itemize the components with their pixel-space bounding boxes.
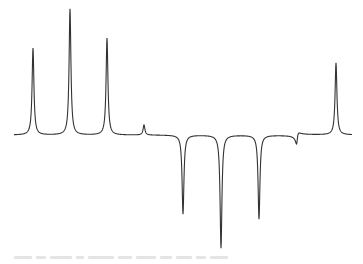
caption-text-fragment bbox=[160, 256, 172, 259]
caption-text-fragment bbox=[36, 256, 46, 259]
caption-text-fragment bbox=[88, 256, 114, 259]
figure-caption bbox=[14, 254, 228, 260]
spectrum-trace bbox=[14, 9, 352, 248]
caption-text-fragment bbox=[14, 256, 32, 259]
caption-text-fragment bbox=[136, 256, 156, 259]
caption-text-fragment bbox=[50, 256, 72, 259]
caption-text-fragment bbox=[118, 256, 132, 259]
caption-text-fragment bbox=[176, 256, 192, 259]
spectrum-plot bbox=[0, 0, 363, 264]
caption-text-fragment bbox=[76, 256, 84, 259]
caption-text-fragment bbox=[210, 256, 228, 259]
caption-text-fragment bbox=[196, 256, 206, 259]
